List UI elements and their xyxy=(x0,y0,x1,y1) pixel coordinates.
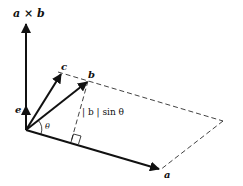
vector-b xyxy=(26,82,87,130)
label-height: | b | sin θ xyxy=(82,107,124,118)
angle-arc xyxy=(38,120,42,134)
label-cross-product: a × b xyxy=(13,7,45,20)
cross-product-diagram: a × b c b e θ | b | sin θ a xyxy=(0,0,243,186)
label-c: c xyxy=(61,61,67,72)
label-a: a xyxy=(164,169,170,180)
label-b: b xyxy=(88,69,95,80)
vector-a xyxy=(26,130,159,169)
parallelogram-right-edge xyxy=(160,121,223,170)
label-theta: θ xyxy=(45,122,50,131)
label-e: e xyxy=(15,104,21,115)
vector-c xyxy=(26,74,61,130)
